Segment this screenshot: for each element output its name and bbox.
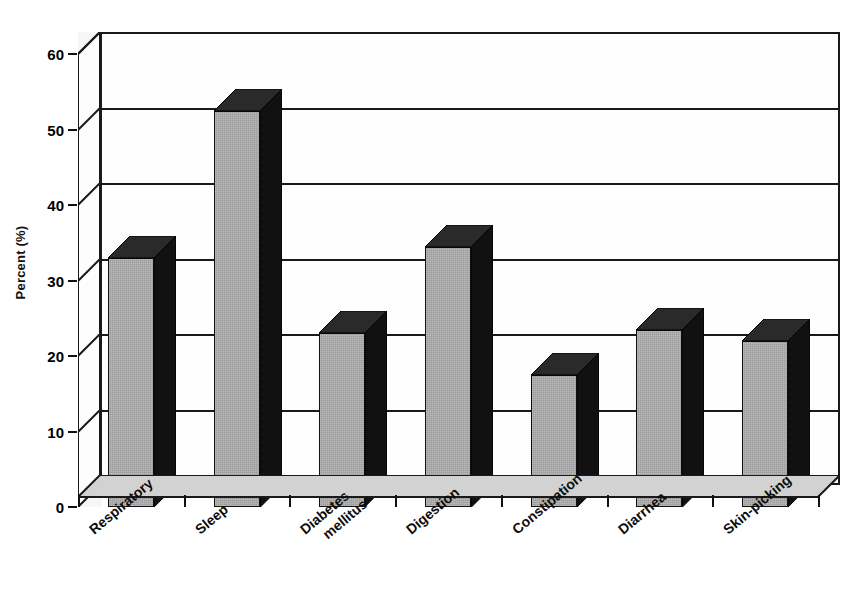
x-axis-category-labels: RespiratorySleepDiabetesmellitusDigestio… <box>0 0 855 604</box>
x-category-label: Sleep <box>192 501 232 538</box>
x-category-label: Diarrhea <box>615 488 670 538</box>
x-category-label: Constipation <box>509 470 586 538</box>
x-category-label: Respiratory <box>86 475 157 538</box>
x-category-label: Digestion <box>403 484 463 538</box>
x-category-label: Diabetesmellitus <box>297 448 411 552</box>
x-category-label: Skin-picking <box>720 471 795 538</box>
bar-chart: Percent (%) 0102030405060 RespiratorySle… <box>0 0 855 604</box>
